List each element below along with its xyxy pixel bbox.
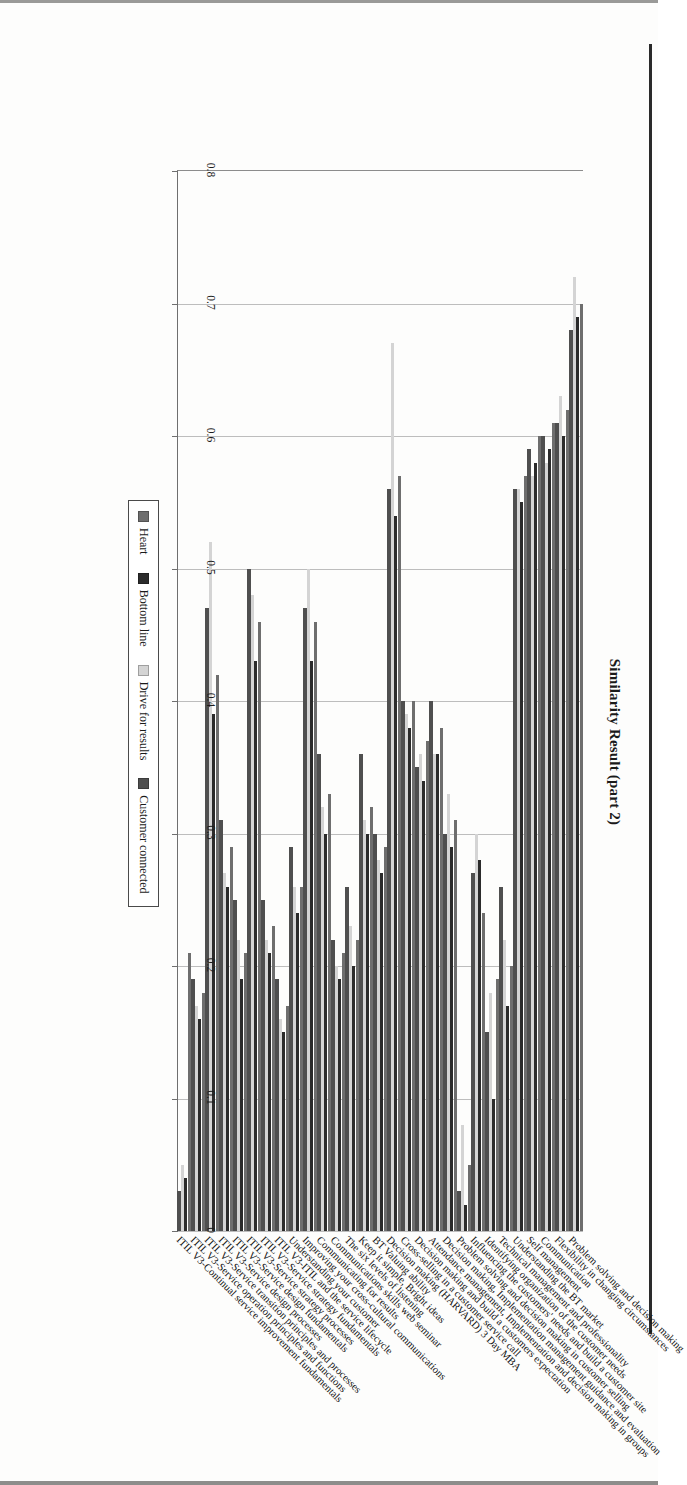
bar — [486, 1032, 489, 1231]
bar-group — [541, 171, 555, 1230]
bar — [296, 913, 299, 1231]
bar — [377, 860, 380, 1231]
bar — [265, 940, 268, 1232]
bar — [430, 701, 433, 1231]
bar — [394, 516, 397, 1232]
bar — [510, 966, 513, 1231]
bar — [482, 913, 485, 1231]
bar-group — [429, 171, 443, 1230]
bar — [528, 449, 531, 1231]
bar — [304, 608, 307, 1231]
bar — [374, 834, 377, 1232]
bar — [332, 940, 335, 1232]
bar-group — [177, 171, 191, 1230]
bar — [520, 502, 523, 1231]
bar-group — [401, 171, 415, 1230]
bar — [478, 860, 481, 1231]
bar — [492, 1099, 495, 1232]
bar-group — [317, 171, 331, 1230]
bar — [433, 754, 436, 1231]
bar — [268, 953, 271, 1231]
bar — [559, 396, 562, 1231]
legend-swatch-icon — [138, 511, 149, 522]
bar — [178, 1191, 181, 1231]
bar — [454, 820, 457, 1231]
legend-item: Heart — [136, 511, 151, 555]
page-bottom-edge — [0, 1481, 658, 1485]
gridline — [178, 1231, 583, 1232]
bar — [188, 953, 191, 1231]
bar — [380, 873, 383, 1231]
legend-swatch-icon — [138, 778, 149, 789]
legend-swatch-icon — [138, 573, 149, 584]
bar — [314, 622, 317, 1232]
legend-item: Bottom line — [136, 573, 151, 647]
bar — [562, 436, 565, 1231]
bar — [198, 1019, 201, 1231]
bar-group — [527, 171, 541, 1230]
bar — [356, 940, 359, 1232]
bar — [324, 834, 327, 1232]
bar — [496, 979, 499, 1231]
bar-group — [345, 171, 359, 1230]
bar — [366, 834, 369, 1232]
bar — [244, 953, 247, 1231]
bar — [458, 1191, 461, 1231]
bar — [468, 1165, 471, 1231]
bar — [342, 953, 345, 1231]
bar-group — [457, 171, 471, 1230]
bar — [195, 1006, 198, 1231]
legend-item: Drive for results — [136, 665, 151, 761]
bar — [370, 807, 373, 1231]
bar — [363, 820, 366, 1231]
bar — [209, 542, 212, 1231]
bar — [286, 1006, 289, 1231]
bar — [517, 489, 520, 1231]
bar-group — [485, 171, 499, 1230]
bar — [352, 966, 355, 1231]
bar — [524, 476, 527, 1231]
bar — [192, 979, 195, 1231]
bar — [184, 1178, 187, 1231]
plot-area — [177, 170, 583, 1230]
bar-group — [303, 171, 317, 1230]
bar — [542, 436, 545, 1231]
axis-tick-label: 0 — [205, 1227, 217, 1233]
bar — [556, 423, 559, 1231]
bar — [545, 463, 548, 1232]
chart-title: Similarity Result (part 2) — [606, 92, 623, 1392]
bar — [391, 343, 394, 1231]
bar — [282, 1032, 285, 1231]
bar — [461, 1125, 464, 1231]
bar — [405, 714, 408, 1231]
bar — [272, 926, 275, 1231]
bar — [181, 1165, 184, 1231]
bar-group — [555, 171, 569, 1230]
axis-tick-label: 0.5 — [205, 560, 217, 574]
legend-item: Customer connected — [136, 778, 151, 893]
legend-label: Drive for results — [136, 682, 151, 761]
bar — [464, 1205, 467, 1232]
bar-group — [443, 171, 457, 1230]
bar-group — [219, 171, 233, 1230]
bar — [538, 436, 541, 1231]
bar — [408, 728, 411, 1232]
bar — [212, 714, 215, 1231]
page-top-edge — [0, 0, 658, 3]
bar — [216, 675, 219, 1232]
axis-tick-label: 0.7 — [205, 295, 217, 309]
bar — [514, 489, 517, 1231]
bar-group — [373, 171, 387, 1230]
bar — [346, 887, 349, 1232]
axis-tick-label: 0.2 — [205, 958, 217, 972]
bar — [506, 1006, 509, 1231]
bar — [398, 476, 401, 1231]
bar — [338, 979, 341, 1231]
bar — [402, 701, 405, 1231]
bar-group — [289, 171, 303, 1230]
bar — [258, 622, 261, 1232]
bar — [426, 741, 429, 1231]
axis-tick-label: 0.4 — [205, 693, 217, 707]
bar — [328, 794, 331, 1231]
bar — [223, 873, 226, 1231]
